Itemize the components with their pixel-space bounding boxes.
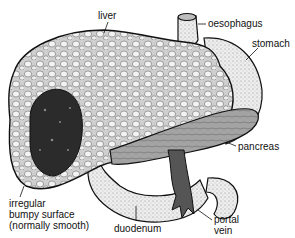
label-irregular-1: irregular <box>9 198 46 209</box>
label-liver: liver <box>98 10 117 21</box>
oesophagus-opening <box>178 14 196 21</box>
intestine-loop-right <box>206 178 238 219</box>
label-oesophagus: oesophagus <box>208 18 263 29</box>
label-irregular-2: bumpy surface <box>9 209 75 220</box>
label-stomach: stomach <box>252 38 290 49</box>
label-vein: vein <box>214 225 232 236</box>
label-portal: portal <box>214 214 239 225</box>
label-pancreas: pancreas <box>238 141 279 152</box>
label-duodenum: duodenum <box>114 223 161 234</box>
label-irregular-3: (normally smooth) <box>9 220 89 231</box>
liver-anatomy-diagram: liver oesophagus stomach pancreas irregu… <box>0 0 295 238</box>
